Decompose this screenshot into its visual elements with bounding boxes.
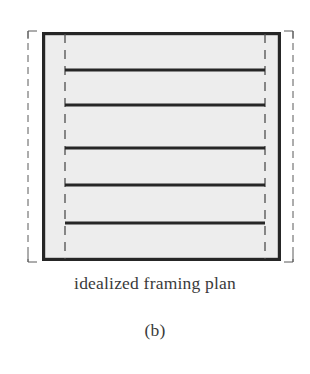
- framing-plan-svg: [0, 0, 310, 270]
- plan-caption: idealized framing plan: [0, 273, 310, 294]
- tick-top-right-icon: [284, 31, 293, 39]
- tick-bottom-right-icon: [284, 254, 293, 262]
- framing-plan-figure: idealized framing plan (b): [0, 0, 310, 374]
- tick-bottom-left-icon: [28, 254, 37, 262]
- tick-top-left-icon: [28, 31, 37, 39]
- subfigure-label: (b): [0, 320, 310, 341]
- framing-plan-drawing: [0, 0, 310, 270]
